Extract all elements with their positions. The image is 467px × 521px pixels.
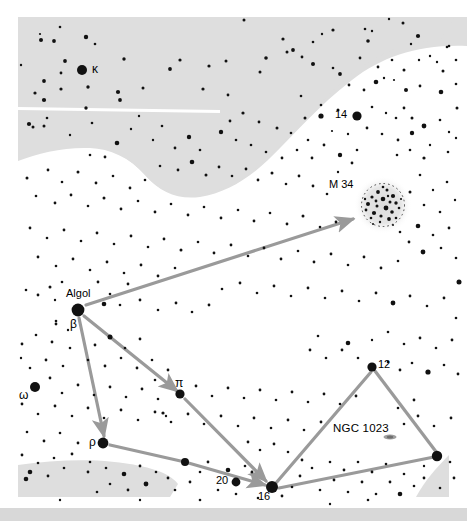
arrow-algol-to-pi: [84, 316, 177, 391]
arrow-pi-to-16: [185, 399, 266, 481]
label-star-12: 12: [378, 359, 390, 370]
label-star-16: 16: [258, 491, 270, 502]
footer-bar: [0, 508, 467, 521]
sky-map-svg: [0, 0, 467, 521]
star-rho: [98, 438, 109, 449]
label-beta: β: [70, 318, 77, 330]
milkyway-regions: [18, 17, 467, 497]
star-hop-arrows: [79, 219, 437, 488]
label-kappa: κ: [92, 63, 98, 75]
label-star-14: 14: [335, 109, 347, 120]
star-algol: [72, 304, 85, 317]
label-m34: M 34: [329, 179, 353, 190]
star-12: [367, 362, 376, 371]
star-14: [352, 111, 361, 120]
ngc1023-galaxy-icon: [384, 434, 397, 439]
star-pi: [175, 389, 184, 398]
star-chart-canvas: κ 14 M 34 Algol β ω π 12 NGC 1023 ρ 20 1…: [0, 0, 467, 521]
label-pi: π: [175, 377, 183, 389]
label-omega: ω: [19, 389, 28, 401]
line-east-star-to-16: [279, 457, 434, 488]
line-12-to-east-star: [375, 371, 437, 453]
label-rho: ρ: [89, 436, 96, 448]
milkyway-upper-band-inner: [18, 17, 455, 196]
label-algol: Algol: [66, 288, 90, 299]
m34-cluster: [354, 176, 412, 234]
milkyway-lower-right-wedge: [416, 455, 449, 497]
arrow-algol-to-rho: [79, 318, 104, 436]
label-star-20: 20: [216, 475, 228, 486]
star-kappa: [77, 65, 87, 75]
label-ngc1023: NGC 1023: [333, 423, 389, 435]
star-omega: [30, 382, 40, 392]
star-20: [232, 478, 241, 487]
